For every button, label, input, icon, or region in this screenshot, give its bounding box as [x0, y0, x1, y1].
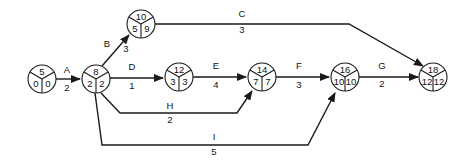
- node-number: 8: [93, 66, 98, 77]
- activity-label: E: [213, 60, 219, 71]
- node-number: 12: [174, 64, 185, 75]
- activity-duration: 3: [239, 24, 244, 35]
- earliest-time: 0: [33, 78, 38, 89]
- activity-h: H2: [101, 91, 252, 125]
- activity-label: G: [378, 60, 385, 71]
- earliest-time: 3: [170, 76, 175, 87]
- activity-duration: 3: [123, 43, 128, 54]
- activity-duration: 2: [167, 114, 172, 125]
- edges-layer: A2B3C3D1E4F3G2H2I5: [56, 8, 423, 157]
- activity-label: H: [167, 100, 174, 111]
- latest-time: 2: [99, 78, 104, 89]
- event-node-14: 1477: [248, 63, 276, 91]
- activity-f: F3: [276, 60, 329, 90]
- latest-time: 9: [144, 23, 149, 34]
- earliest-time: 5: [132, 23, 137, 34]
- latest-time: 0: [45, 78, 50, 89]
- activity-label: D: [129, 61, 136, 72]
- activity-duration: 1: [129, 80, 134, 91]
- event-node-8: 822: [82, 65, 110, 93]
- earliest-time: 7: [253, 76, 258, 87]
- activity-duration: 3: [296, 79, 301, 90]
- activity-duration: 4: [213, 79, 218, 90]
- activity-c: C3: [155, 8, 423, 66]
- activity-a: A2: [56, 64, 80, 93]
- event-node-5: 500: [28, 65, 56, 93]
- activity-i: I5: [95, 93, 335, 157]
- activity-label: C: [239, 8, 246, 19]
- activity-duration: 2: [64, 82, 69, 93]
- earliest-time: 10: [334, 76, 345, 87]
- earliest-time: 12: [422, 76, 433, 87]
- latest-time: 10: [346, 76, 357, 87]
- network-diagram: A2B3C3D1E4F3G2H2I5 500822105912331477161…: [0, 0, 472, 165]
- event-node-12: 1233: [165, 63, 193, 91]
- arrow-h: [101, 91, 252, 113]
- latest-time: 12: [434, 76, 445, 87]
- earliest-time: 2: [87, 78, 92, 89]
- activity-label: A: [64, 64, 71, 75]
- activity-e: E4: [193, 60, 246, 90]
- node-number: 14: [257, 64, 268, 75]
- event-node-16: 161010: [331, 63, 359, 91]
- activity-label: F: [296, 60, 302, 71]
- activity-b: B3: [102, 35, 129, 66]
- event-node-18: 181212: [419, 63, 447, 91]
- activity-d: D1: [110, 61, 163, 91]
- node-number: 18: [428, 64, 439, 75]
- activity-duration: 5: [211, 146, 216, 157]
- latest-time: 3: [182, 76, 187, 87]
- activity-g: G2: [359, 60, 418, 89]
- event-node-10: 1059: [127, 10, 155, 38]
- node-number: 16: [340, 64, 351, 75]
- activity-label: I: [213, 131, 216, 142]
- activity-duration: 2: [379, 78, 384, 89]
- node-number: 10: [136, 11, 147, 22]
- activity-label: B: [104, 38, 110, 49]
- latest-time: 7: [265, 76, 270, 87]
- node-number: 5: [39, 66, 44, 77]
